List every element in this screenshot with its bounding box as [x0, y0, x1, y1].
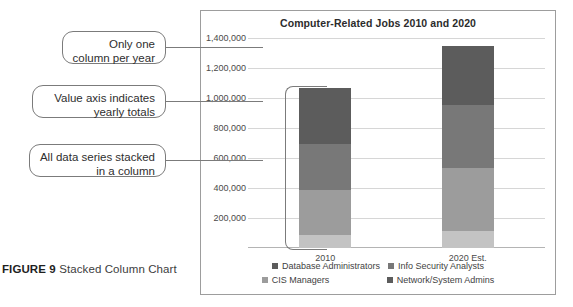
legend-label-cis-managers: CIS Managers [272, 275, 330, 285]
bar-column-2020-est-[interactable] [442, 46, 494, 248]
y-axis-tick-label: 1,400,000 [206, 33, 246, 43]
legend-item-network-system-admins: Network/System Admins [387, 275, 495, 285]
y-axis-tick-label: 600,000 [213, 153, 246, 163]
y-axis-tick-label: 400,000 [213, 183, 246, 193]
y-axis-labels: 1,400,0001,200,0001,000,000800,000600,00… [200, 38, 246, 248]
bar-segment[interactable] [442, 46, 494, 105]
bar-segment[interactable] [442, 168, 494, 231]
leader-line-one-column [165, 47, 263, 48]
chart-legend: Database Administrators Info Security An… [201, 259, 555, 287]
bar-segment[interactable] [442, 231, 494, 248]
leader-line-value-axis [165, 101, 263, 102]
chart-frame: Computer-Related Jobs 2010 and 2020 1,40… [200, 10, 556, 295]
figure-caption: FIGURE 9 Stacked Column Chart [2, 262, 192, 277]
x-axis-tick-label: 2020 Est. [449, 253, 487, 263]
y-axis-tick-label: 200,000 [213, 213, 246, 223]
x-axis-tick-label: 2010 [315, 253, 335, 263]
leader-line-stacked [165, 160, 263, 161]
legend-swatch-icon-info-security-analysts [388, 263, 394, 269]
gridline [248, 38, 545, 39]
legend-swatch-icon-database-administrators [272, 263, 278, 269]
column-annotation-bracket [285, 86, 327, 251]
y-axis-tick-label: 800,000 [213, 123, 246, 133]
figure-label: FIGURE 9 [2, 263, 56, 275]
chart-title: Computer-Related Jobs 2010 and 2020 [201, 17, 555, 29]
legend-swatch-icon-cis-managers [262, 277, 268, 283]
legend-swatch-icon-network-system-admins [387, 277, 393, 283]
gridline [248, 68, 545, 69]
legend-label-network-system-admins: Network/System Admins [397, 275, 495, 285]
figure-caption-text: Stacked Column Chart [56, 263, 177, 275]
y-axis-tick-label: 1,200,000 [206, 63, 246, 73]
legend-row-2: CIS Managers Network/System Admins [201, 273, 555, 287]
callout-stacked-series: All data series stacked in a column [29, 144, 166, 177]
legend-row-1: Database Administrators Info Security An… [201, 259, 555, 273]
legend-item-cis-managers: CIS Managers [262, 275, 387, 285]
callout-value-axis: Value axis indicates yearly totals [32, 85, 166, 118]
callout-one-column-per-year: Only one column per year [62, 31, 166, 64]
bar-segment[interactable] [442, 105, 494, 168]
